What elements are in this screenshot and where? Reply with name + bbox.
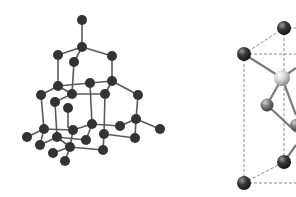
bond	[55, 102, 57, 137]
atom	[99, 129, 109, 139]
atom	[39, 124, 49, 134]
atom	[237, 47, 251, 61]
atom	[77, 42, 87, 52]
atom	[277, 155, 291, 169]
atom	[130, 133, 140, 143]
atom	[60, 156, 70, 166]
atom	[277, 21, 291, 35]
atom	[67, 89, 77, 99]
right-unit-cell	[237, 21, 296, 190]
cell-edge	[244, 28, 284, 54]
bond	[90, 83, 92, 124]
atom	[50, 97, 60, 107]
bond	[41, 95, 44, 129]
atom	[115, 121, 125, 131]
atom	[53, 50, 63, 60]
crystal-structure-figure	[0, 0, 296, 197]
atom	[87, 119, 97, 129]
atom	[69, 57, 79, 67]
atom	[100, 89, 110, 99]
left-lattice	[22, 15, 165, 166]
atom	[77, 15, 87, 25]
atom	[107, 76, 117, 86]
atom	[52, 132, 62, 142]
atom	[290, 119, 296, 131]
atom	[98, 145, 108, 155]
atom	[107, 51, 117, 61]
atom	[53, 81, 63, 91]
atom	[35, 140, 45, 150]
atom	[261, 99, 274, 112]
atom	[237, 176, 251, 190]
atom	[85, 78, 95, 88]
atom	[155, 124, 165, 134]
atom	[63, 103, 73, 113]
atom	[22, 132, 32, 142]
atom	[68, 125, 78, 135]
atoms	[22, 15, 165, 166]
atom	[81, 135, 91, 145]
atom	[131, 114, 141, 124]
atom	[133, 90, 143, 100]
atoms-right	[237, 21, 296, 190]
atom	[274, 70, 290, 86]
atom	[36, 90, 46, 100]
atom	[48, 148, 58, 158]
atom	[65, 142, 75, 152]
bond	[104, 94, 105, 134]
